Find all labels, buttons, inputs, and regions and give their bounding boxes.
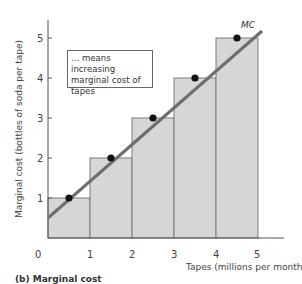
mc-curve-label: MC bbox=[241, 20, 256, 30]
x-tick-2: 2 bbox=[129, 249, 135, 260]
mc-point-3 bbox=[149, 114, 156, 121]
bar-2 bbox=[90, 158, 132, 238]
x-tick-3: 3 bbox=[171, 249, 177, 260]
x-tick-5: 5 bbox=[254, 249, 260, 260]
x-tick-4: 4 bbox=[213, 249, 219, 260]
y-tick-3: 3 bbox=[37, 113, 43, 124]
y-tick-5: 5 bbox=[37, 33, 43, 44]
x-axis-title: Tapes (millions per month) bbox=[185, 262, 302, 272]
y-ticks bbox=[48, 38, 52, 198]
bar-1 bbox=[48, 198, 90, 238]
figure-caption: (b) Marginal cost bbox=[15, 274, 102, 284]
y-tick-4: 4 bbox=[37, 73, 43, 84]
annotation-box: ... means increasing marginal cost of ta… bbox=[67, 50, 153, 88]
mc-point-1 bbox=[65, 194, 72, 201]
mc-point-5 bbox=[233, 34, 240, 41]
y-tick-2: 2 bbox=[37, 153, 43, 164]
x-tick-0: 0 bbox=[35, 249, 41, 260]
bar-3 bbox=[132, 118, 174, 238]
mc-point-2 bbox=[107, 154, 114, 161]
mc-point-4 bbox=[191, 74, 198, 81]
bar-5 bbox=[216, 38, 258, 238]
y-tick-1: 1 bbox=[37, 193, 43, 204]
y-axis-title: Marginal cost (bottles of soda per tape) bbox=[14, 40, 24, 218]
x-tick-1: 1 bbox=[87, 249, 93, 260]
